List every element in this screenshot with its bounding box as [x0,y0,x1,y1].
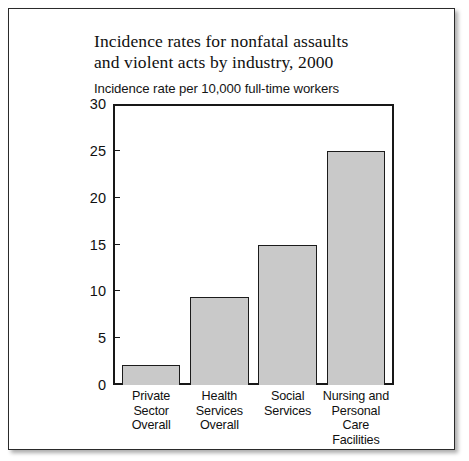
bar[interactable] [258,245,317,386]
page-frame: Incidence rates for nonfatal assaults an… [8,8,455,450]
y-axis-tick-label: 25 [90,143,106,159]
x-axis-category-label-line: Facilities [323,433,389,448]
bar[interactable] [327,151,386,385]
y-axis-tick-label: 0 [98,377,106,393]
x-axis-category-label-line: Personal [323,404,389,419]
x-axis-category-label-line: Services [186,404,252,419]
y-axis-tick-label: 20 [90,190,106,206]
bar-slot [117,104,185,385]
bar[interactable] [122,365,181,385]
x-axis-category-label: Nursing andPersonalCareFacilities [322,389,390,447]
x-axis-category-labels: PrivateSectorOverallHealthServicesOveral… [113,389,394,447]
chart-subtitle: Incidence rate per 10,000 full-time work… [94,81,424,97]
y-axis-tick-label: 15 [90,237,106,253]
y-axis-tick-label: 30 [90,96,106,112]
chart-title-line-1: Incidence rates for nonfatal assaults [94,31,348,51]
x-axis-category-label-line: Nursing and [323,389,389,404]
plot-area: 051015202530 [113,104,394,385]
bar-slot [185,104,253,385]
bar-slot [322,104,390,385]
bar[interactable] [190,297,249,385]
x-axis-category-label-line: Private [118,389,184,404]
y-axis-tick-label: 10 [90,283,106,299]
bar-series [113,104,394,385]
y-axis-tick-label: 5 [98,330,106,346]
figure-root: Incidence rates for nonfatal assaults an… [0,0,469,461]
x-axis-category-label-line: Sector [118,404,184,419]
x-axis-category-label-line: Services [255,404,321,419]
x-axis-category-label-line: Social [255,389,321,404]
x-axis-category-label: PrivateSectorOverall [117,389,185,447]
x-axis-category-label-line: Health [186,389,252,404]
bar-slot [254,104,322,385]
title-block: Incidence rates for nonfatal assaults an… [94,31,424,97]
x-axis-category-label: SocialServices [254,389,322,447]
x-axis-category-label: HealthServicesOverall [185,389,253,447]
x-axis-category-label-line: Care [323,418,389,433]
chart-title-line-2: and violent acts by industry, 2000 [94,52,333,72]
chart-title: Incidence rates for nonfatal assaults an… [94,31,424,73]
x-axis-category-label-line: Overall [118,418,184,433]
x-axis-category-label-line: Overall [186,418,252,433]
